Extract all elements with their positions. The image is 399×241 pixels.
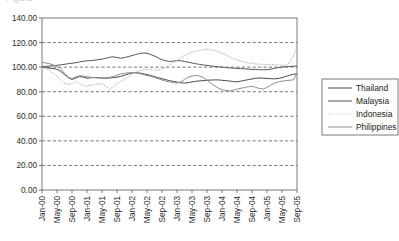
x-tick-label: May-04	[233, 196, 242, 224]
x-tick-label: Jan-05	[263, 196, 272, 221]
x-axis-ticks: Jan-00May-00Sep-00Jan-01May-01Sep-01Jan-…	[38, 190, 302, 223]
chart-figure: Figure 0.0020.0040.0060.0080.00100.00120…	[0, 0, 399, 241]
x-tick-label: Sep-00	[68, 196, 77, 223]
y-tick-label: 80.00	[17, 88, 38, 97]
y-tick-label: 40.00	[17, 137, 38, 146]
x-tick-label: Sep-02	[158, 196, 167, 223]
legend-label-indonesia: Indonesia	[356, 109, 393, 119]
x-tick-label: May-00	[53, 196, 62, 224]
x-tick-label: Jan-04	[218, 196, 227, 221]
y-tick-label: 140.00	[12, 14, 37, 23]
legend-label-philippines: Philippines	[356, 122, 397, 132]
y-tick-label: 20.00	[17, 161, 38, 170]
y-tick-label: 100.00	[12, 63, 37, 72]
chart-legend: ThailandMalaysiaIndonesiaPhilippines	[322, 79, 398, 135]
legend-label-malaysia: Malaysia	[356, 96, 389, 106]
x-tick-label: May-02	[143, 196, 152, 224]
plot-area-background	[42, 18, 297, 190]
x-tick-label: Sep-01	[113, 196, 122, 223]
x-tick-label: Sep-03	[203, 196, 212, 223]
line-chart-svg: 0.0020.0040.0060.0080.00100.00120.00140.…	[0, 0, 399, 241]
clipped-figure-caption: Figure	[6, 0, 33, 3]
x-tick-label: May-03	[188, 196, 197, 224]
x-tick-label: Jan-02	[128, 196, 137, 221]
x-tick-label: Jan-01	[83, 196, 92, 221]
y-tick-label: 0.00	[21, 186, 37, 195]
x-tick-label: Jan-03	[173, 196, 182, 221]
x-tick-label: Sep-04	[248, 196, 257, 223]
y-tick-label: 60.00	[17, 112, 38, 121]
x-tick-label: May-01	[98, 196, 107, 224]
y-axis-ticks: 0.0020.0040.0060.0080.00100.00120.00140.…	[12, 14, 42, 195]
x-tick-label: May-05	[278, 196, 287, 224]
x-tick-label: Jan-00	[38, 196, 47, 221]
y-tick-label: 120.00	[12, 39, 37, 48]
legend-label-thailand: Thailand	[356, 83, 388, 93]
x-tick-label: Sep-05	[293, 196, 302, 223]
